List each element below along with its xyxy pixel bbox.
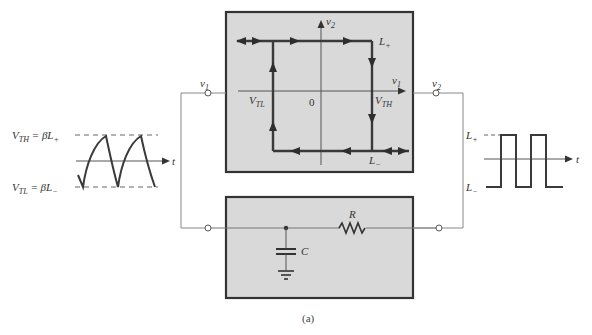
time-label: t bbox=[576, 153, 580, 165]
schmitt-astable-diagram: v2 v1 0 VTL VTH L+ L− R C bbox=[0, 0, 592, 335]
figure-caption: (a) bbox=[302, 312, 315, 325]
rc-network-box: R C bbox=[211, 197, 436, 298]
output-terminal-label: v2 bbox=[432, 77, 441, 92]
resistor-label: R bbox=[348, 208, 356, 220]
l-plus-label: L+ bbox=[465, 129, 478, 144]
origin-label: 0 bbox=[309, 96, 315, 108]
vth-equation: VTH = βL+ bbox=[12, 129, 59, 144]
time-label: t bbox=[172, 155, 176, 167]
time-axis-arrow-icon bbox=[162, 158, 170, 165]
rc-right-terminal bbox=[436, 225, 442, 231]
capacitor-label: C bbox=[301, 245, 309, 257]
time-axis-arrow-icon bbox=[565, 156, 573, 163]
rc-left-terminal bbox=[205, 225, 211, 231]
input-terminal-label: v1 bbox=[200, 77, 209, 92]
l-minus-label: L− bbox=[465, 181, 478, 196]
square-waveform bbox=[486, 135, 563, 187]
input-waveform: t VTH = βL+ VTL = βL− bbox=[12, 129, 176, 196]
vtl-equation: VTL = βL− bbox=[12, 181, 58, 196]
output-waveform: t L+ L− bbox=[465, 129, 580, 196]
transfer-characteristic-box: v2 v1 0 VTL VTH L+ L− bbox=[226, 12, 413, 172]
